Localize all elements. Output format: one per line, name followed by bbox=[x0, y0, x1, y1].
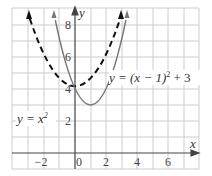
arrow-icon bbox=[125, 10, 130, 18]
y-axis-label: y bbox=[77, 5, 85, 20]
arrow-icon bbox=[118, 10, 124, 19]
svg-text:y = (x − 1)2 + 3: y = (x − 1)2 + 3 bbox=[107, 70, 191, 85]
x-axis-label: x bbox=[189, 136, 196, 151]
svg-text:8: 8 bbox=[65, 18, 71, 32]
chart: −2 0 2 4 6 2 4 6 8 y x y = x2 y = (x − 1… bbox=[0, 0, 212, 176]
svg-text:6: 6 bbox=[65, 50, 71, 64]
svg-text:2: 2 bbox=[65, 114, 71, 128]
svg-text:2: 2 bbox=[103, 155, 109, 169]
arrow-icon bbox=[52, 10, 57, 18]
label-y-equals-x-squared: y = x2 bbox=[15, 111, 56, 126]
svg-text:6: 6 bbox=[165, 155, 171, 169]
svg-text:4: 4 bbox=[65, 82, 71, 96]
label-shifted-parabola: y = (x − 1)2 + 3 bbox=[107, 70, 201, 85]
svg-text:4: 4 bbox=[134, 155, 140, 169]
svg-text:y = x2: y = x2 bbox=[15, 111, 48, 126]
svg-text:−2: −2 bbox=[35, 155, 48, 169]
arrow-icon bbox=[26, 10, 32, 19]
svg-text:0: 0 bbox=[76, 155, 82, 169]
